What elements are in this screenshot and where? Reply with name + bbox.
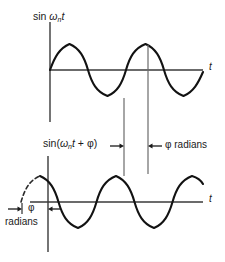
top-signal-prefix: sin <box>33 10 49 22</box>
bottom-signal-omega: ω <box>60 137 68 149</box>
bottom-signal-phi: φ <box>87 137 94 149</box>
phi-radians-right-label: φ radians <box>165 140 207 150</box>
top-signal-label: sin ωnt <box>33 11 64 23</box>
top-signal-variable: t <box>61 10 64 22</box>
phase-shift-figure: sin ωnt t sin(ωnt + φ) t φ radians φ rad… <box>0 0 225 262</box>
bottom-signal-close-paren: ) <box>94 137 98 149</box>
top-signal-omega: ω <box>49 10 57 22</box>
top-panel <box>50 22 203 122</box>
bottom-signal-plus: + <box>75 137 87 149</box>
bottom-panel <box>21 156 203 252</box>
radians-word-left-label: radians <box>5 217 38 227</box>
bottom-signal-label: sin(ωnt + φ) <box>43 138 97 150</box>
top-axis-t-label: t <box>209 62 212 72</box>
bottom-sine-dashed-leadin <box>21 176 40 202</box>
bottom-axis-t-label: t <box>209 194 212 204</box>
phi-symbol-left-label: φ <box>28 203 34 213</box>
bottom-signal-prefix: sin( <box>43 137 60 149</box>
phi-radians-right-arrows <box>110 144 162 149</box>
